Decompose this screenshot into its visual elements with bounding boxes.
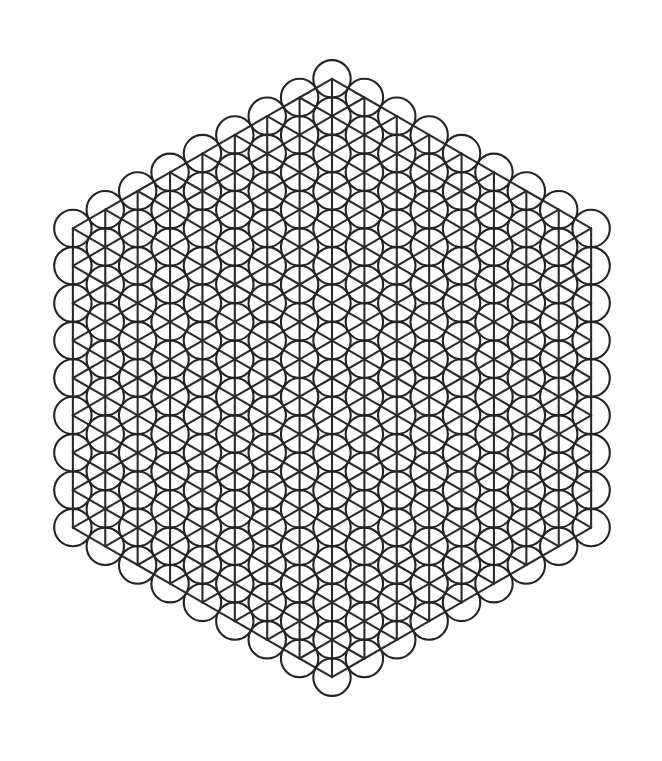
lattice-figure: Hexagonal triangular-lattice circle pack… [0,0,662,761]
